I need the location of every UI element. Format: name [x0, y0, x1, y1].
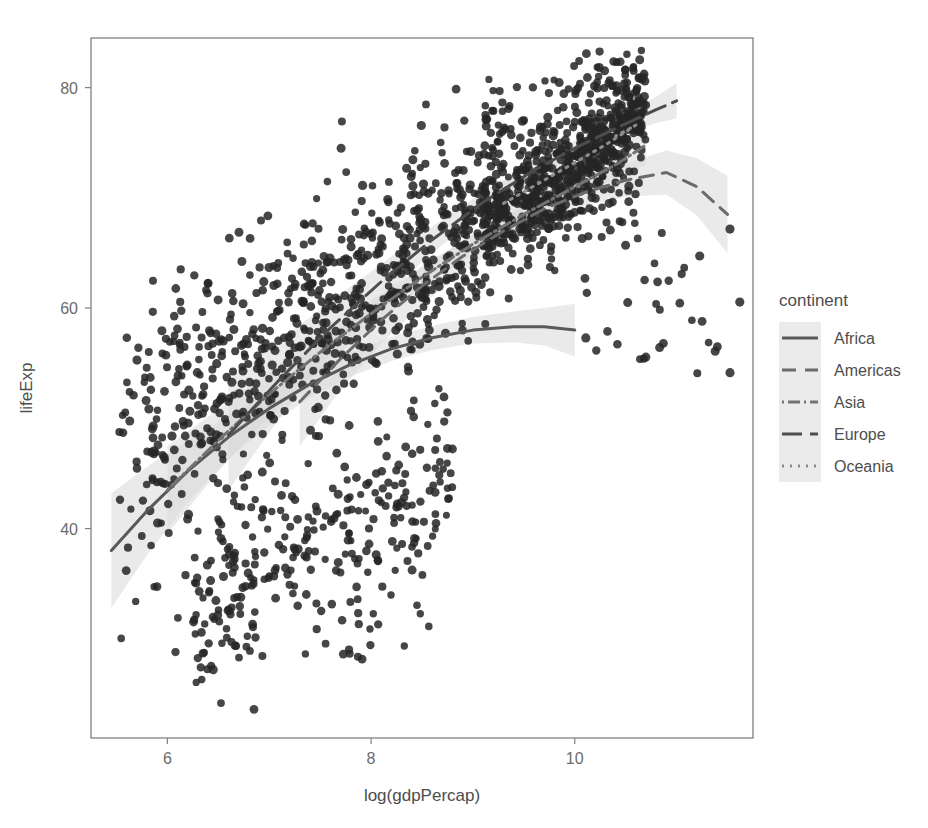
data-point [208, 351, 216, 359]
data-point [635, 55, 644, 64]
data-point [173, 465, 181, 473]
data-point [259, 277, 268, 286]
data-point [598, 204, 605, 211]
data-point [322, 640, 330, 648]
data-point [340, 371, 348, 379]
data-point [355, 507, 362, 514]
data-point [431, 446, 439, 454]
data-point [413, 601, 421, 609]
data-point [362, 508, 369, 515]
data-point [178, 490, 186, 498]
data-point [355, 231, 363, 239]
data-point [397, 514, 404, 521]
data-point [377, 267, 385, 275]
data-point [346, 598, 354, 606]
data-point [219, 456, 226, 463]
data-point [206, 576, 215, 585]
data-point [417, 121, 426, 130]
data-point [470, 268, 479, 277]
data-point [302, 590, 311, 599]
data-point [423, 315, 432, 324]
data-point [572, 86, 581, 95]
data-point [315, 432, 323, 440]
data-point [631, 190, 639, 198]
data-point [327, 278, 335, 286]
data-point [572, 173, 581, 182]
data-point [247, 503, 255, 511]
data-point [488, 152, 496, 160]
data-point [653, 277, 662, 286]
data-point [306, 327, 313, 334]
data-point [565, 151, 574, 160]
data-point [519, 147, 527, 155]
data-point [448, 274, 456, 282]
data-point [153, 582, 162, 591]
data-point [314, 292, 322, 300]
data-point [334, 558, 343, 567]
data-point [609, 57, 617, 65]
data-point [562, 234, 570, 242]
data-point [380, 295, 387, 302]
data-point [410, 207, 418, 215]
data-point [170, 312, 179, 321]
data-point [440, 418, 448, 426]
data-point [354, 609, 362, 617]
data-point [182, 362, 190, 370]
data-point [397, 204, 406, 213]
data-point [379, 484, 387, 492]
data-point [246, 234, 255, 243]
data-point [585, 183, 593, 191]
data-point [271, 594, 280, 603]
data-point [231, 492, 238, 499]
data-point [320, 252, 329, 261]
data-point [624, 197, 633, 206]
data-point [541, 180, 549, 188]
data-point [411, 147, 419, 155]
data-point [207, 428, 216, 437]
data-point [524, 255, 532, 263]
data-point [250, 705, 259, 714]
data-point [143, 481, 151, 489]
data-point [545, 89, 553, 97]
data-point [431, 400, 438, 407]
data-point [390, 519, 398, 527]
data-point [658, 229, 666, 237]
data-point [695, 251, 704, 260]
data-point [440, 123, 448, 131]
data-point [314, 403, 323, 412]
data-point [158, 519, 165, 526]
data-point [408, 543, 416, 551]
data-point [321, 307, 329, 315]
data-point [320, 524, 327, 531]
data-point [271, 346, 280, 355]
data-point [224, 546, 231, 553]
data-point [342, 551, 349, 558]
data-point [295, 342, 304, 351]
data-point [640, 276, 649, 285]
data-point [289, 590, 297, 598]
data-point [249, 533, 256, 540]
data-point [198, 333, 206, 341]
data-point [460, 221, 469, 230]
data-point [193, 574, 201, 582]
data-point [143, 364, 151, 372]
data-point [345, 646, 353, 654]
data-point [260, 548, 268, 556]
data-point [440, 393, 449, 402]
data-point [291, 545, 299, 553]
data-point [509, 250, 517, 258]
data-point [387, 591, 394, 598]
data-point [603, 327, 612, 336]
data-point [445, 494, 453, 502]
data-point [540, 236, 548, 244]
data-point [407, 172, 416, 181]
data-point [436, 478, 443, 485]
data-point [332, 449, 341, 458]
x-tick-label: 10 [566, 750, 584, 767]
data-point [583, 289, 591, 297]
data-point [284, 298, 293, 307]
data-point [192, 324, 200, 332]
data-point [523, 201, 531, 209]
data-point [278, 431, 286, 439]
data-point [160, 387, 169, 396]
